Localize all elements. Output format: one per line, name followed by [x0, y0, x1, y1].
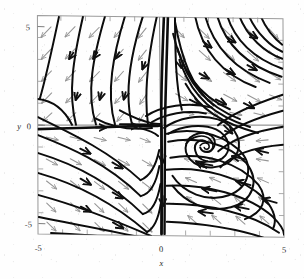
streamline — [71, 17, 84, 125]
separatrix-vertical-upper-2 — [164, 16, 169, 126]
x-tick-zero: 0 — [159, 244, 163, 254]
streamline — [51, 232, 155, 243]
streamline — [128, 16, 144, 124]
separatrix-vertical-lower — [160, 126, 162, 234]
phase-portrait-figure: 5 0 -5 -5 0 5 y x — [0, 0, 304, 279]
axis-major-ticks — [36, 25, 161, 234]
separatrix-vertical-lower-2 — [164, 128, 167, 234]
y-tick-max: 5 — [26, 22, 30, 32]
streamline — [147, 204, 161, 232]
streamline — [146, 105, 212, 116]
phase-portrait-svg: 5 0 -5 -5 0 5 y x — [0, 0, 304, 279]
x-axis-label: x — [158, 258, 163, 268]
streamline — [146, 16, 158, 124]
streamline — [249, 16, 282, 52]
streamline — [90, 16, 106, 124]
x-tick-max: 5 — [282, 245, 286, 255]
y-tick-zero: 0 — [27, 121, 31, 131]
x-tick-min: -5 — [35, 243, 42, 253]
streamline — [140, 166, 159, 196]
y-axis-label: y — [16, 121, 21, 131]
streamline — [205, 15, 270, 84]
y-tick-min: -5 — [25, 219, 32, 229]
